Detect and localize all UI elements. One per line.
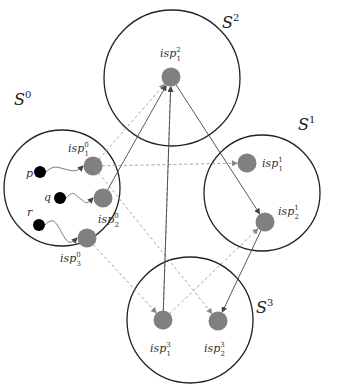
set-circle-s3 [127, 257, 253, 383]
dashed-edge-isp03-isp31 [93, 245, 156, 313]
isp-label-isp31: isp31 [150, 341, 171, 358]
isp-node-isp01 [84, 157, 103, 176]
isp-label-isp21: isp21 [160, 46, 181, 63]
set-circle-s0 [4, 130, 120, 246]
isp-node-isp11 [238, 154, 257, 173]
solid-edge-isp21-isp12 [176, 85, 260, 214]
set-label-s3: S3 [256, 297, 273, 317]
isp-label-isp11: isp11 [262, 156, 283, 173]
solid-edge-isp31-isp21 [163, 87, 170, 311]
network-diagram: S0S1S2S3isp01isp02isp03isp11isp12isp21is… [0, 0, 340, 387]
peer-link-p-isp01 [46, 166, 83, 172]
set-label-s1: S1 [298, 114, 315, 134]
isp-label-isp32: isp32 [204, 341, 225, 358]
set-circle-s1 [204, 135, 320, 251]
isp-node-isp32 [209, 312, 228, 331]
peer-label-p: p [26, 167, 33, 180]
isp-node-isp03 [78, 229, 97, 248]
peer-link-q-isp02 [66, 193, 93, 202]
set-label-s2: S2 [222, 12, 239, 32]
peer-link-r-isp03 [45, 221, 77, 242]
dashed-edge-isp31-isp12 [169, 229, 257, 314]
peer-node-q [54, 192, 66, 204]
isp-label-isp02: isp02 [98, 212, 119, 229]
isp-nodes [78, 68, 275, 331]
labels: S0S1S2S3isp01isp02isp03isp11isp12isp21is… [14, 12, 315, 358]
isp-node-isp31 [154, 311, 173, 330]
isp-node-isp02 [94, 189, 113, 208]
dashed-edge-isp01-isp21 [99, 85, 164, 160]
peer-label-q: q [44, 191, 51, 204]
peer-node-p [34, 166, 46, 178]
isp-label-isp12: isp12 [278, 204, 299, 221]
isp-label-isp03: isp03 [60, 251, 81, 268]
isp-label-isp01: isp01 [68, 141, 89, 158]
isp-node-isp21 [162, 68, 181, 87]
isp-node-isp12 [256, 213, 275, 232]
solid-edge-isp02-isp21 [107, 86, 166, 190]
dashed-edge-isp01-isp32 [99, 173, 212, 313]
peer-label-r: r [27, 206, 33, 219]
peer-node-r [33, 219, 45, 231]
set-label-s0: S0 [14, 89, 31, 109]
solid-edges [107, 85, 261, 312]
